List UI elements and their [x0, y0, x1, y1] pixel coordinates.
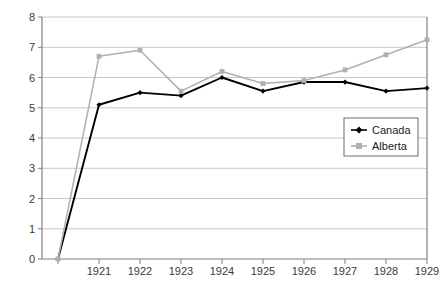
- data-point-alberta-0: [56, 257, 61, 262]
- y-tick-label: 0: [29, 253, 35, 265]
- y-tick-label: 7: [29, 41, 35, 53]
- line-chart: 8 7 6 5 4 3 2 1 0 1921 1922 1923: [0, 0, 443, 286]
- data-point-alberta-6: [302, 78, 307, 83]
- y-tick-label: 1: [29, 223, 35, 235]
- data-point-alberta-4: [220, 69, 225, 74]
- legend-marker-alberta-square-icon: [356, 143, 362, 149]
- y-tick-label: 8: [29, 11, 35, 23]
- x-tick-label: 1926: [292, 265, 316, 277]
- x-tick-label: 1921: [87, 265, 111, 277]
- data-point-alberta-8: [384, 52, 389, 57]
- data-point-alberta-2: [138, 48, 143, 53]
- legend-label-canada: Canada: [372, 124, 411, 136]
- data-point-alberta-3: [179, 89, 184, 94]
- x-tick-label: 1925: [251, 265, 275, 277]
- x-tick-label: 1922: [128, 265, 152, 277]
- chart-canvas: 8 7 6 5 4 3 2 1 0 1921 1922 1923: [0, 0, 443, 286]
- legend[interactable]: Canada Alberta: [344, 118, 418, 156]
- x-axis-tick-labels: 1921 1922 1923 1924 1925 1926 1927 1928 …: [87, 265, 439, 277]
- data-point-alberta-5: [261, 81, 266, 86]
- x-tick-label: 1929: [415, 265, 439, 277]
- x-axis-ticks: [58, 259, 427, 264]
- data-point-alberta-9: [425, 37, 430, 42]
- y-tick-label: 6: [29, 72, 35, 84]
- y-tick-label: 3: [29, 162, 35, 174]
- x-tick-label: 1924: [210, 265, 234, 277]
- y-tick-label: 5: [29, 102, 35, 114]
- x-tick-label: 1923: [169, 265, 193, 277]
- y-axis-tick-labels: 8 7 6 5 4 3 2 1 0: [29, 11, 35, 265]
- data-point-alberta-1: [97, 54, 102, 59]
- x-tick-label: 1928: [374, 265, 398, 277]
- legend-label-alberta: Alberta: [372, 140, 408, 152]
- x-tick-label: 1927: [333, 265, 357, 277]
- data-point-alberta-7: [343, 68, 348, 73]
- y-tick-label: 2: [29, 193, 35, 205]
- y-tick-label: 4: [29, 132, 35, 144]
